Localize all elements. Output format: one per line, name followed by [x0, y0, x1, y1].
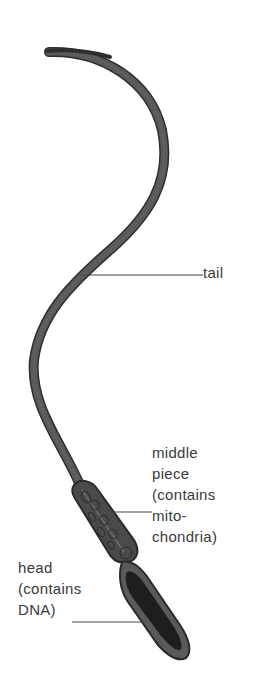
head-label: head (contains DNA) — [18, 557, 82, 620]
middle-piece-label: middle piece (contains mito- chondria) — [152, 442, 217, 547]
head — [120, 562, 189, 660]
middle-piece — [72, 481, 137, 563]
tail — [34, 50, 165, 485]
tail-label: tail — [203, 262, 223, 283]
